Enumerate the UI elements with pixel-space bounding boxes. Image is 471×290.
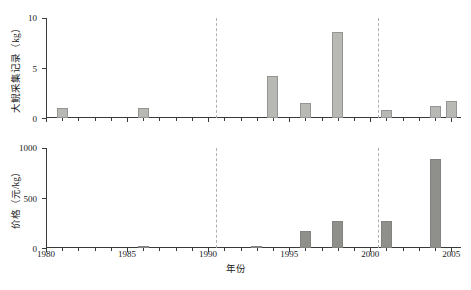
x-axis-tick [289, 118, 290, 122]
x-axis-tick [143, 118, 144, 121]
x-axis-tick [386, 118, 387, 121]
x-axis-tick [95, 118, 96, 121]
plot-area-price: 05001000 [46, 148, 461, 248]
x-axis-title: 年份 [0, 265, 471, 275]
bar [430, 106, 441, 118]
reference-line [216, 148, 217, 248]
x-axis-tick [370, 118, 371, 122]
x-axis-tick [403, 118, 404, 121]
chart-panel-price: 05001000 [46, 148, 461, 248]
y-axis-tick: 1000 [42, 148, 46, 149]
bar [300, 103, 311, 118]
x-axis-tick [192, 118, 193, 121]
bar [300, 231, 311, 248]
bar [381, 221, 392, 249]
x-axis-tick [62, 118, 63, 121]
x-axis-tick [257, 118, 258, 121]
x-axis-tick-label: 2000 [361, 250, 379, 259]
reference-line [216, 18, 217, 118]
y-axis-tick-label: 10 [28, 14, 37, 23]
x-axis-tick [338, 118, 339, 121]
y-axis-tick-label: 0 [33, 115, 38, 124]
x-axis-tick [305, 118, 306, 121]
x-axis-tick [451, 118, 452, 122]
chart-panel-collection: 0510 [46, 18, 461, 118]
x-axis-tick [208, 118, 209, 122]
x-axis-tick [78, 118, 79, 121]
figure-root: 0510 大鲵采集记录（kg） 05001000 价格（元/kg） 198019… [0, 0, 471, 290]
y-axis-line-bottom [46, 148, 47, 248]
x-axis-tick [46, 118, 47, 122]
y-axis-line-top [46, 18, 47, 118]
bar [381, 110, 392, 118]
x-axis-tick-label: 1995 [280, 250, 298, 259]
x-axis-tick-label: 2005 [442, 250, 460, 259]
x-axis-line-top [46, 117, 461, 118]
x-axis-tick [322, 118, 323, 121]
reference-line [378, 148, 379, 248]
x-axis-tick-label: 1990 [199, 250, 217, 259]
x-axis-tick [241, 118, 242, 121]
plot-area-collection: 0510 [46, 18, 461, 118]
y-axis-tick: 10 [42, 18, 46, 19]
bar [57, 108, 68, 118]
y-axis-title-price: 价格（元/kg） [12, 148, 22, 248]
x-axis-tick [224, 118, 225, 121]
reference-line [378, 18, 379, 118]
x-axis-tick-labels: 198019851990199520002005 [46, 250, 461, 264]
y-axis-tick: 500 [42, 198, 46, 199]
x-axis-tick-label: 1985 [118, 250, 136, 259]
bar [430, 159, 441, 248]
x-axis-tick [354, 118, 355, 121]
y-axis-tick-label: 500 [24, 194, 38, 203]
x-axis-tick [435, 118, 436, 121]
x-axis-tick [176, 118, 177, 121]
y-axis-tick-label: 1000 [19, 144, 37, 153]
bar [138, 246, 149, 248]
y-axis-title-collection: 大鲵采集记录（kg） [12, 18, 22, 118]
bar [138, 108, 149, 118]
bar [251, 246, 262, 249]
y-axis-tick: 5 [42, 68, 46, 69]
y-axis-tick-label: 5 [33, 64, 38, 73]
x-axis-tick [127, 118, 128, 122]
bar [332, 221, 343, 248]
x-axis-tick-label: 1980 [37, 250, 55, 259]
bar [446, 101, 457, 118]
x-axis-tick [159, 118, 160, 121]
bar [267, 76, 278, 118]
x-axis-tick [419, 118, 420, 121]
bar [332, 32, 343, 118]
x-axis-tick [111, 118, 112, 121]
x-axis-tick [273, 118, 274, 121]
